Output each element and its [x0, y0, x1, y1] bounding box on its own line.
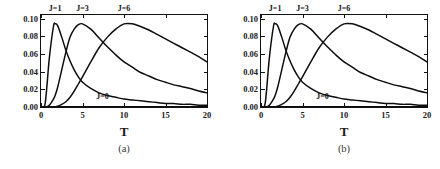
x-tick-mark-top: [207, 15, 208, 18]
y-axis-label-b: I(X;Y|Z): [229, 0, 243, 14]
y-tick-label: 0.06: [23, 50, 38, 59]
x-tick-mark: [207, 103, 208, 107]
panel-b: I(X;Y|Z) 0.100.080.060.040.020.000510152…: [220, 0, 440, 169]
y-tick-label: 0.02: [243, 85, 258, 94]
x-tick-label: 20: [203, 111, 212, 120]
x-tick-label: 10: [340, 111, 349, 120]
curve-label-j0: J=0: [316, 93, 329, 101]
curve-j1: [261, 23, 427, 107]
curve-label-j6: J=6: [118, 5, 131, 13]
y-tick-mark-right: [424, 107, 427, 108]
y-tick-mark: [261, 107, 265, 108]
curve-j6: [41, 23, 207, 107]
y-tick-mark: [41, 107, 45, 108]
curve-svg-a: [41, 15, 207, 107]
x-axis-label-a: T: [40, 124, 208, 140]
x-tick-label: 0: [259, 111, 263, 120]
x-tick-label: 5: [300, 111, 304, 120]
x-tick-label: 10: [120, 111, 129, 120]
x-tick-label: 5: [80, 111, 84, 120]
curves-b: [261, 15, 427, 107]
y-tick-mark-right: [204, 107, 207, 108]
plot-area-a: 0.100.080.060.040.020.0005101520 J=1J=3J…: [40, 14, 208, 108]
y-tick-label: 0.00: [23, 103, 38, 112]
curve-j3: [41, 24, 207, 107]
x-tick-label: 20: [423, 111, 432, 120]
curve-svg-b: [261, 15, 427, 107]
y-tick-label: 0.10: [23, 14, 38, 23]
x-axis-label-b: T: [260, 124, 428, 140]
x-tick-mark-top: [427, 15, 428, 18]
y-tick-label: 0.04: [243, 67, 258, 76]
x-tick-label: 15: [381, 111, 390, 120]
y-tick-label: 0.08: [23, 32, 38, 41]
curve-label-j1: J=1: [269, 5, 282, 13]
curve-j1: [41, 23, 207, 107]
y-tick-label: 0.04: [23, 67, 38, 76]
curve-j6: [261, 23, 427, 107]
figure-container: I(X;Y|Z=1) 0.100.080.060.040.020.0005101…: [0, 0, 440, 169]
y-tick-label: 0.02: [23, 85, 38, 94]
curve-label-j3: J=3: [76, 5, 89, 13]
curve-j3: [261, 24, 427, 107]
y-tick-label: 0.08: [243, 32, 258, 41]
panel-a: I(X;Y|Z=1) 0.100.080.060.040.020.0005101…: [0, 0, 220, 169]
x-tick-mark: [427, 103, 428, 107]
panel-caption-a: (a): [40, 143, 208, 154]
y-tick-label: 0.10: [243, 14, 258, 23]
curve-label-j6: J=6: [338, 5, 351, 13]
curve-label-j3: J=3: [296, 5, 309, 13]
plot-area-b: 0.100.080.060.040.020.0005101520 J=1J=3J…: [260, 14, 428, 108]
x-tick-label: 15: [161, 111, 170, 120]
y-tick-label: 0.06: [243, 50, 258, 59]
x-tick-label: 0: [39, 111, 43, 120]
curves-a: [41, 15, 207, 107]
y-tick-label: 0.00: [243, 103, 258, 112]
y-axis-label-a: I(X;Y|Z=1): [9, 0, 23, 14]
curve-label-j1: J=1: [49, 5, 62, 13]
panel-caption-b: (b): [260, 143, 428, 154]
curve-label-j0: J=0: [96, 93, 109, 101]
